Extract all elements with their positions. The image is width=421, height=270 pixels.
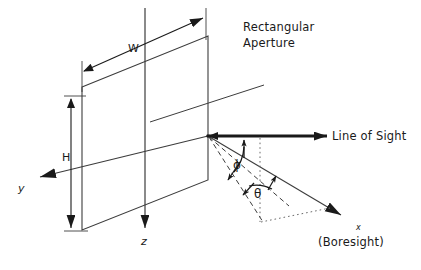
boresight-caption: (Boresight) <box>318 236 384 250</box>
dashed-ray-lower <box>209 137 263 222</box>
aperture-note-line1: Rectangular <box>243 21 314 35</box>
theta-arrow-right <box>268 176 276 190</box>
width-dimension-arrow <box>84 18 203 71</box>
line-of-sight-label: Line of Sight <box>332 130 407 144</box>
dashed-ray-upper <box>209 137 289 206</box>
x-axis-label: x <box>356 223 361 232</box>
x-axis-boresight-line <box>208 136 341 215</box>
theta-angle-label: θ <box>254 187 262 201</box>
origin-point <box>206 134 210 138</box>
dotted-triangle-base <box>261 208 330 222</box>
z-axis-label: z <box>141 236 147 249</box>
aperture-leader-line <box>150 85 264 122</box>
phi-angle-label: ϕ <box>233 158 241 172</box>
y-axis-label: y <box>18 183 25 196</box>
aperture-geometry-diagram: Rectangular Aperture W H y z x (Boresigh… <box>0 0 421 270</box>
height-dimension-label: H <box>62 152 70 165</box>
aperture-note-line2: Aperture <box>243 37 295 51</box>
theta-arrow-left <box>243 183 254 195</box>
width-dimension-label: W <box>128 43 139 56</box>
